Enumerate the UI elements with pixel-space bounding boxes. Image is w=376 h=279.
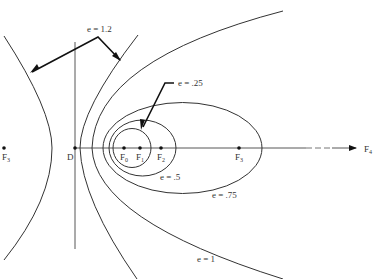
label-f3: F3 xyxy=(235,152,243,163)
conic-diagram: D F0 F1 F2 F3 F3 F4 e = 1.2 e = .25 e = … xyxy=(0,0,376,279)
label-f2: F2 xyxy=(157,152,165,163)
focus-f1-point xyxy=(138,146,142,150)
hyperbola-right-branch xyxy=(80,35,138,279)
label-f0: F0 xyxy=(120,152,128,163)
label-e-025: e = .25 xyxy=(178,78,203,88)
label-f4: F4 xyxy=(364,144,372,155)
focus-f2-point xyxy=(159,146,163,150)
arrowhead-icon xyxy=(30,64,39,73)
label-e-075: e = .75 xyxy=(212,190,237,200)
label-f3-left: F3 xyxy=(2,152,10,163)
label-f1: F1 xyxy=(136,152,144,163)
directrix-point xyxy=(73,146,77,150)
label-e-05: e = .5 xyxy=(160,172,181,182)
leader-e-12 xyxy=(32,37,120,72)
diagram-svg: D F0 F1 F2 F3 F3 F4 e = 1.2 e = .25 e = … xyxy=(0,0,376,279)
parabola-e-1 xyxy=(92,11,283,279)
label-e-1: e = 1 xyxy=(197,254,215,264)
focus-f0-point xyxy=(122,146,126,150)
hyperbola-left-branch xyxy=(4,36,52,260)
label-directrix: D xyxy=(67,152,74,162)
label-e-12: e = 1.2 xyxy=(87,24,112,34)
focus-f3-left-point xyxy=(2,146,6,150)
focus-f3-point xyxy=(237,146,241,150)
